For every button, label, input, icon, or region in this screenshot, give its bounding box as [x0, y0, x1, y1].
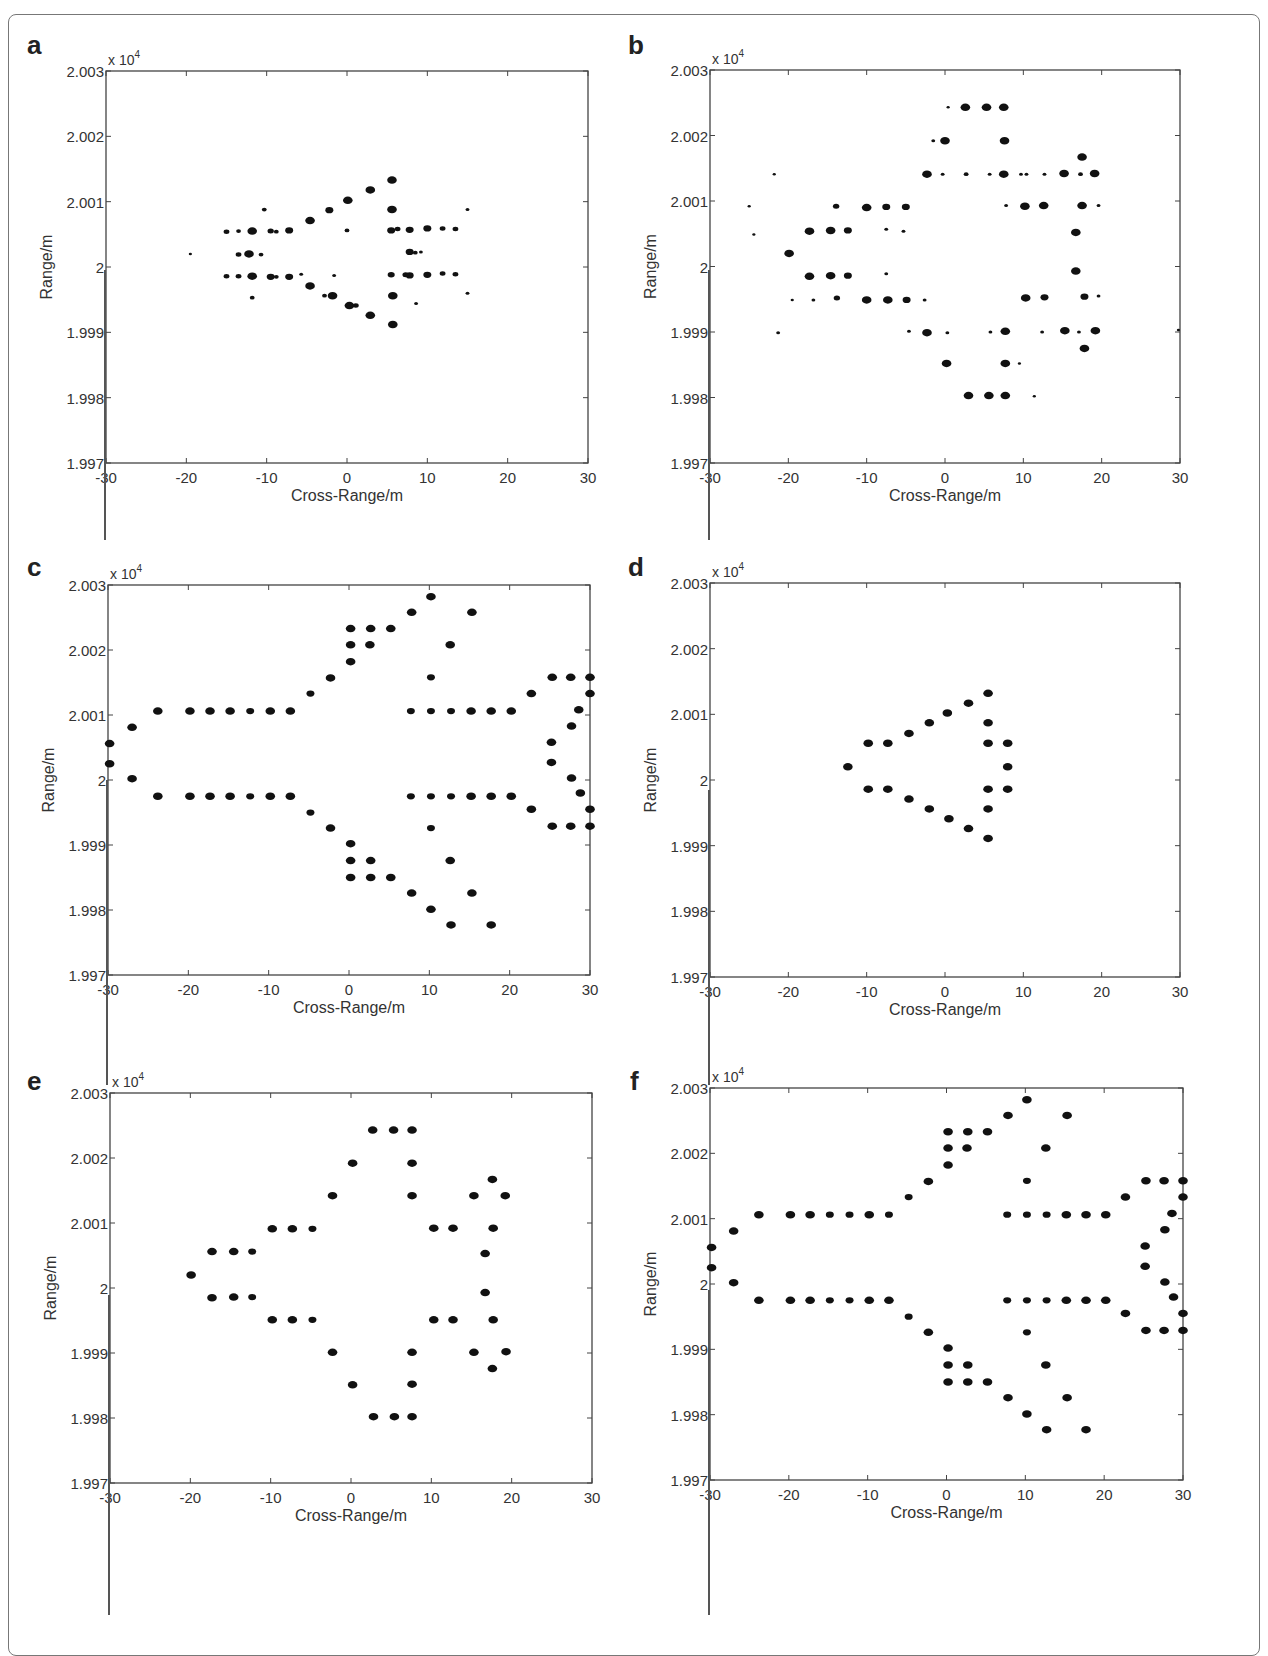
data-point — [924, 1329, 934, 1337]
y-axis-label: Range/m — [40, 748, 57, 813]
scatter-points — [843, 690, 1012, 843]
data-point — [833, 204, 839, 209]
data-point — [1019, 173, 1023, 176]
data-point — [1081, 1426, 1091, 1434]
data-point — [407, 1380, 417, 1388]
x-axis-label: Cross-Range/m — [889, 1001, 1001, 1018]
data-point — [547, 739, 557, 747]
data-point — [247, 272, 257, 280]
scan-artifact-line — [104, 270, 106, 540]
y-tick-label: 2.003 — [66, 63, 104, 80]
data-point — [982, 104, 992, 112]
data-point — [467, 609, 477, 617]
data-point — [826, 1297, 834, 1303]
data-point — [285, 227, 293, 233]
data-point — [346, 857, 356, 865]
data-point — [1177, 329, 1180, 332]
data-point — [229, 1293, 239, 1301]
y-tick-label: 2.003 — [670, 1080, 708, 1097]
data-point — [884, 272, 888, 275]
data-point — [943, 1361, 953, 1369]
data-point — [983, 785, 993, 793]
x-tick-label: 30 — [1172, 983, 1189, 1000]
data-point — [752, 233, 755, 236]
data-point — [805, 1297, 815, 1305]
data-point — [305, 282, 315, 290]
panel-e: e -30-20-1001020301.9971.9981.99922.0012… — [0, 1060, 634, 1628]
scatter-plot-e: -30-20-1001020301.9971.9981.99922.0012.0… — [0, 1060, 634, 1628]
data-point — [547, 674, 557, 682]
data-point — [846, 1212, 854, 1218]
data-point — [834, 295, 840, 300]
data-point — [1021, 294, 1031, 302]
data-point — [427, 793, 435, 799]
data-point — [368, 1126, 378, 1134]
data-point — [922, 329, 932, 337]
data-point — [811, 298, 815, 301]
data-point — [962, 1144, 972, 1152]
data-point — [1059, 170, 1069, 178]
data-point — [446, 921, 456, 929]
data-point — [527, 806, 537, 814]
data-point — [1003, 1394, 1013, 1402]
data-point — [267, 1225, 277, 1233]
scatter-plot-c: -30-20-1001020301.9971.9981.99922.0012.0… — [0, 540, 634, 1060]
y-axis-label: Range/m — [38, 235, 55, 300]
x-tick-label: 30 — [1175, 1486, 1192, 1503]
data-point — [925, 805, 935, 813]
data-point — [924, 1178, 934, 1186]
data-point — [1003, 1297, 1011, 1303]
data-point — [186, 1271, 196, 1279]
data-point — [500, 1192, 510, 1200]
y-tick-label: 1.998 — [66, 390, 104, 407]
x-tick-label: 20 — [1093, 983, 1110, 1000]
y-tick-label: 1.999 — [670, 1341, 708, 1358]
data-point — [1062, 1112, 1072, 1120]
data-point — [883, 739, 893, 747]
plot-area — [106, 71, 588, 463]
data-point — [585, 822, 595, 830]
x-tick-label: 10 — [1017, 1486, 1034, 1503]
data-point — [267, 229, 273, 234]
scan-artifact-line — [108, 1295, 110, 1615]
data-point — [1001, 328, 1011, 336]
data-point — [387, 176, 397, 184]
data-point — [388, 321, 398, 329]
data-point — [1000, 137, 1010, 145]
data-point — [466, 292, 470, 295]
data-point — [343, 197, 353, 205]
data-point — [902, 230, 906, 233]
data-point — [225, 707, 235, 715]
data-point — [244, 250, 254, 258]
data-point — [274, 275, 279, 279]
data-point — [903, 297, 911, 303]
data-point — [1159, 1177, 1169, 1185]
data-point — [805, 1211, 815, 1219]
data-point — [1178, 1177, 1188, 1185]
data-point — [386, 874, 396, 882]
y-tick-label: 1.997 — [70, 1475, 108, 1492]
data-point — [983, 739, 993, 747]
y-tick-label: 1.997 — [670, 455, 708, 472]
data-point — [1160, 1278, 1170, 1286]
data-point — [236, 252, 242, 257]
data-point — [407, 1192, 417, 1200]
data-point — [846, 1297, 854, 1303]
data-point — [127, 775, 137, 783]
data-point — [999, 104, 1009, 112]
data-point — [236, 274, 242, 279]
data-point — [983, 805, 993, 813]
data-point — [567, 774, 577, 782]
data-point — [961, 104, 971, 112]
y-axis-label: Range/m — [42, 1256, 59, 1321]
x-tick-label: 30 — [1172, 469, 1189, 486]
data-point — [246, 708, 254, 714]
data-point — [262, 208, 267, 212]
x-tick-label: 20 — [1096, 1486, 1113, 1503]
x-tick-label: 20 — [501, 981, 518, 998]
data-point — [964, 392, 974, 400]
data-point — [346, 625, 356, 633]
data-point — [486, 707, 496, 715]
data-point — [486, 921, 496, 929]
data-point — [883, 296, 893, 304]
